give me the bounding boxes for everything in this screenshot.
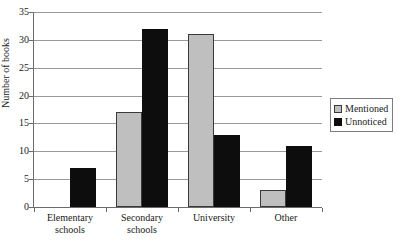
bar-mentioned-1 [116, 112, 142, 207]
y-tick-label: 25 [3, 63, 29, 73]
y-tick-mark [29, 68, 33, 69]
y-tick-label: 10 [3, 146, 29, 156]
gridline [34, 68, 322, 69]
y-tick-label: 15 [3, 118, 29, 128]
legend-item[interactable]: Mentioned [334, 102, 388, 115]
x-category-label: University [178, 212, 250, 224]
bar-chart: Number of books 05101520253035 Elementar… [0, 0, 413, 245]
bar-unnoticed-3 [286, 146, 312, 207]
legend-label: Mentioned [345, 103, 388, 114]
bar-unnoticed-2 [214, 135, 240, 207]
legend-swatch-icon [334, 118, 342, 126]
x-tick-mark-origin [34, 208, 35, 212]
x-category-label: Elementary schools [34, 212, 106, 236]
legend: MentionedUnnoticed [330, 98, 393, 132]
y-tick-mark [29, 207, 33, 208]
legend-item[interactable]: Unnoticed [334, 115, 388, 128]
y-tick-label: 5 [3, 174, 29, 184]
y-tick-mark [29, 96, 33, 97]
y-tick-label: 35 [3, 7, 29, 17]
y-tick-label: 30 [3, 35, 29, 45]
y-tick-mark [29, 123, 33, 124]
y-tick-label: 20 [3, 91, 29, 101]
chart-title-remnant [108, 0, 258, 4]
bar-mentioned-2 [188, 34, 214, 207]
y-tick-mark [29, 12, 33, 13]
legend-swatch-icon [334, 105, 342, 113]
y-tick-label: 0 [3, 202, 29, 212]
x-category-label: Secondary schools [106, 212, 178, 236]
plot-area [34, 12, 322, 207]
y-tick-mark [29, 40, 33, 41]
gridline [34, 151, 322, 152]
x-tick-mark [322, 208, 323, 212]
gridline [34, 12, 322, 13]
y-tick-mark [29, 151, 33, 152]
bar-unnoticed-1 [142, 29, 168, 207]
gridline [34, 40, 322, 41]
bar-unnoticed-0 [70, 168, 96, 207]
gridline [34, 96, 322, 97]
bar-mentioned-3 [260, 190, 286, 207]
x-category-label: Other [250, 212, 322, 224]
legend-label: Unnoticed [345, 116, 387, 127]
y-tick-mark [29, 179, 33, 180]
gridline [34, 123, 322, 124]
